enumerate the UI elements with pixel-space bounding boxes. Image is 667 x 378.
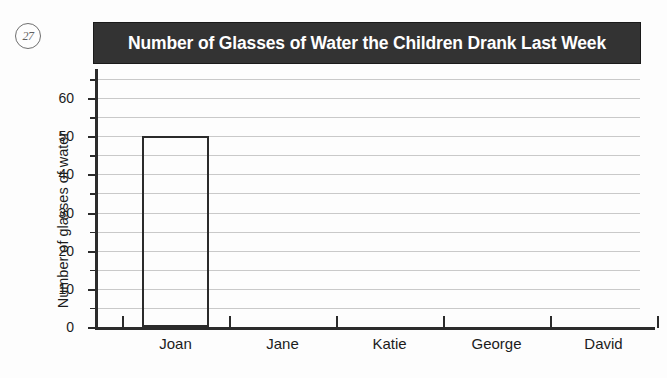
- y-axis-tick-major: [88, 174, 98, 176]
- plot-area: 0102030405060JoanJaneKatieGeorgeDavid: [97, 73, 642, 327]
- x-axis-tick: [122, 316, 124, 328]
- y-axis-tick-label: 10: [58, 281, 74, 297]
- x-axis-category-label: Joan: [159, 335, 192, 352]
- chart-title-banner: Number of Glasses of Water the Children …: [93, 22, 641, 64]
- y-axis-tick-major: [88, 327, 98, 329]
- y-axis-tick-minor: [90, 232, 98, 234]
- y-axis-tick-minor: [90, 155, 98, 157]
- chart-page: 27 Number of Glasses of Water the Childr…: [0, 0, 667, 378]
- y-axis-tick-minor: [90, 117, 98, 119]
- y-axis-tick-label: 20: [58, 243, 74, 259]
- x-axis-category-label: George: [471, 335, 521, 352]
- gridline: [97, 117, 640, 118]
- y-axis-tick-major: [88, 289, 98, 291]
- y-axis-tick-major: [88, 136, 98, 138]
- x-axis-tick: [229, 316, 231, 328]
- x-axis-category-label: Katie: [372, 335, 406, 352]
- x-axis-line: [95, 327, 655, 330]
- y-axis-tick-major: [88, 251, 98, 253]
- y-axis-tick-label: 60: [58, 90, 74, 106]
- page-title: Number of Glasses of Water the Children …: [128, 33, 606, 54]
- y-axis-tick-minor: [90, 270, 98, 272]
- gridline: [97, 79, 640, 80]
- y-axis-tick-label: 30: [58, 205, 74, 221]
- y-axis-tick-label: 0: [66, 319, 74, 335]
- x-axis-category-label: David: [584, 335, 622, 352]
- question-number-marker: 27: [15, 23, 41, 49]
- y-axis-tick-label: 50: [58, 128, 74, 144]
- y-axis-tick-major: [88, 213, 98, 215]
- x-axis-tick: [657, 316, 659, 328]
- y-axis-tick-minor: [90, 79, 98, 81]
- y-axis-tick-major: [88, 98, 98, 100]
- bar: [142, 136, 209, 327]
- y-axis-tick-label: 40: [58, 166, 74, 182]
- y-axis-tick-minor: [90, 193, 98, 195]
- y-axis-tick-minor: [90, 308, 98, 310]
- gridline: [97, 98, 640, 99]
- x-axis-tick: [443, 316, 445, 328]
- x-axis-tick: [550, 316, 552, 328]
- x-axis-tick: [336, 316, 338, 328]
- x-axis-category-label: Jane: [266, 335, 299, 352]
